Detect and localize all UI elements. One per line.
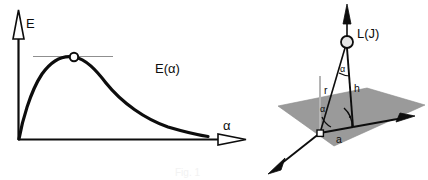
x-axis-arrowhead-icon — [218, 134, 246, 145]
front-left-axis-arrowhead-icon — [268, 158, 285, 174]
source-height-label: h — [354, 82, 360, 94]
slant-distance-label: r — [324, 84, 328, 96]
curve-maximum-point — [70, 53, 78, 61]
light-source-point — [341, 36, 353, 48]
zenith-angle-label: α — [340, 64, 345, 74]
right-panel-group: L(J) r h a α α — [268, 4, 425, 174]
observation-point — [317, 130, 323, 136]
y-axis-label: E — [26, 16, 35, 31]
left-panel-group: E α E(α) — [13, 10, 246, 145]
x-axis-label: α — [223, 118, 231, 133]
right-angle-indicator — [349, 116, 351, 118]
vertical-axis-arrowhead-icon — [343, 4, 351, 24]
figure-caption: Fig. 1 — [175, 167, 200, 178]
y-axis-arrowhead-icon — [13, 10, 24, 39]
light-source-label: L(J) — [357, 26, 379, 41]
ground-distance-label: a — [336, 133, 342, 145]
figure-canvas: E α E(α) — [0, 0, 428, 180]
curve-label: E(α) — [155, 61, 180, 76]
figure-container: E α E(α) — [0, 0, 428, 180]
elevation-angle-label: α — [320, 104, 325, 114]
